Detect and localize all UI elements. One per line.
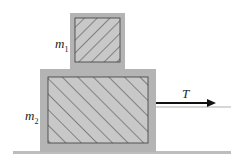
label-m2: m2 bbox=[25, 109, 38, 126]
label-m1: m1 bbox=[55, 37, 68, 54]
diagram-canvas bbox=[0, 0, 244, 163]
block-m2 bbox=[40, 69, 156, 152]
block-m1 bbox=[70, 13, 125, 69]
label-tension: T bbox=[182, 87, 189, 100]
